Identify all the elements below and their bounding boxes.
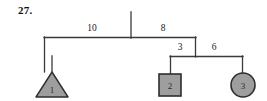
branch-length-label-10: 10 xyxy=(85,24,99,34)
taxon-2-node: 2 xyxy=(159,74,181,96)
figure-number: 27. xyxy=(18,5,32,16)
taxon-2-label: 2 xyxy=(168,81,173,91)
branch-length-label-6: 6 xyxy=(209,43,219,53)
taxon-3-node: 3 xyxy=(231,73,255,97)
figure-container: 27. 1 2 3 10 8 3 6 xyxy=(0,0,267,101)
branch-length-label-8: 8 xyxy=(158,24,168,34)
taxon-3-label: 3 xyxy=(241,81,246,91)
branch-length-label-3: 3 xyxy=(175,43,185,53)
taxon-1-label: 1 xyxy=(50,85,55,95)
taxon-1-node: 1 xyxy=(36,72,68,97)
tree-diagram-svg: 1 2 3 xyxy=(0,0,267,101)
